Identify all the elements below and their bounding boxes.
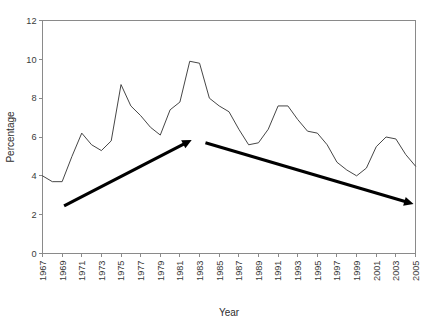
rising-trend-arrow <box>64 144 184 206</box>
percentage-by-year-line-chart: 024681012 196719691971197319751977197919… <box>0 0 432 326</box>
x-tick-label: 1989 <box>254 261 264 281</box>
x-tick-label: 1975 <box>116 261 126 281</box>
plot-border <box>43 21 416 254</box>
y-tick-label: 2 <box>31 210 36 220</box>
y-tick-label: 8 <box>31 93 36 103</box>
y-tick-label: 6 <box>31 132 36 142</box>
x-axis-title: Year <box>219 307 240 318</box>
x-tick-label: 1997 <box>332 261 342 281</box>
chart-figure: 024681012 196719691971197319751977197919… <box>0 0 432 326</box>
x-tick-label: 1993 <box>293 261 303 281</box>
x-tick-label: 1981 <box>175 261 185 281</box>
x-tick-label: 1973 <box>97 261 107 281</box>
x-tick-label: 2003 <box>391 261 401 281</box>
x-tick-label: 1983 <box>195 261 205 281</box>
data-series-line <box>43 61 416 181</box>
x-tick-label: 2001 <box>372 261 382 281</box>
y-tick-label: 0 <box>31 249 36 259</box>
x-tick-label: 2005 <box>411 261 421 281</box>
y-axis-title: Percentage <box>5 111 16 163</box>
x-tick-label: 1977 <box>136 261 146 281</box>
x-tick-label: 1991 <box>273 261 283 281</box>
plot-frame <box>43 21 416 254</box>
x-tick-label: 1969 <box>58 261 68 281</box>
x-tick-label: 1967 <box>38 261 48 281</box>
x-tick-label: 1979 <box>156 261 166 281</box>
x-axis-ticks: 1967196919711973197519771979198119831985… <box>38 254 421 281</box>
y-tick-label: 4 <box>31 171 36 181</box>
trend-annotations <box>64 140 413 206</box>
x-tick-label: 1985 <box>215 261 225 281</box>
x-tick-label: 1987 <box>234 261 244 281</box>
y-tick-label: 10 <box>26 55 36 65</box>
falling-trend-arrow <box>205 143 405 202</box>
x-tick-label: 1971 <box>77 261 87 281</box>
x-tick-label: 1999 <box>352 261 362 281</box>
x-tick-label: 1995 <box>313 261 323 281</box>
falling-trend-arrow-head <box>403 197 413 206</box>
y-tick-label: 12 <box>26 16 36 26</box>
y-axis-ticks: 024681012 <box>26 16 42 259</box>
